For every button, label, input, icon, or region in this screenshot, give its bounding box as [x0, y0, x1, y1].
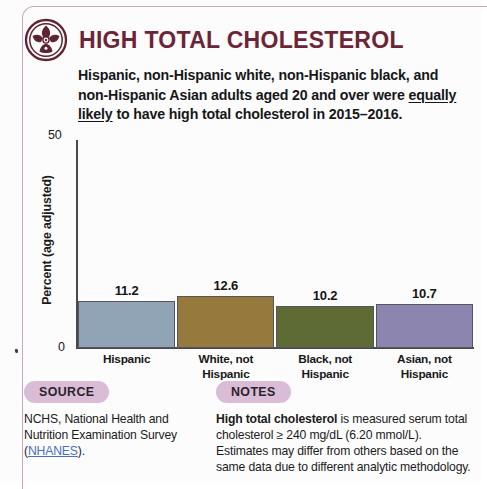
notes-text: High total cholesterol is measured serum… [216, 411, 476, 476]
plot-area: 11.212.610.210.7 [77, 140, 474, 348]
notes-bold-lead: High total cholesterol [216, 412, 337, 426]
bar-group: 12.6 [177, 278, 274, 348]
subtitle: Hispanic, non-Hispanic white, non-Hispan… [78, 66, 470, 125]
source-text-after: ). [78, 444, 85, 458]
notes-section: NOTES High total cholesterol is measured… [216, 381, 476, 475]
notes-label: NOTES [216, 381, 291, 403]
cholesterol-artery-icon [24, 18, 68, 62]
x-axis-label: Black, notHispanic [276, 352, 375, 381]
subtitle-part1: Hispanic, non-Hispanic white, non-Hispan… [78, 67, 438, 103]
bar-hispanic [78, 301, 175, 348]
subtitle-part2: to have high total cholesterol in 2015–2… [113, 106, 403, 122]
source-label: SOURCE [24, 381, 109, 403]
x-axis-label: Hispanic [77, 352, 176, 367]
nhanes-link[interactable]: NHANES [28, 444, 78, 458]
bar-group: 10.2 [276, 288, 373, 348]
bar-black-not-hispanic [276, 306, 373, 348]
bar-group: 11.2 [78, 283, 175, 348]
scan-artifact [15, 349, 18, 353]
bar-white-not-hispanic [177, 296, 274, 348]
header: HIGH TOTAL CHOLESTEROL [24, 18, 425, 62]
source-text: NCHS, National Health and Nutrition Exam… [24, 411, 202, 460]
x-axis-label: Asian, notHispanic [375, 352, 474, 381]
bar-value-label: 10.2 [313, 288, 338, 303]
bar-value-label: 11.2 [115, 283, 139, 298]
y-axis-title: Percent (age adjusted) [40, 150, 54, 330]
footer: SOURCE NCHS, National Health and Nutriti… [24, 381, 479, 475]
bar-value-label: 10.7 [412, 286, 437, 301]
bar-chart: 50 0 Percent (age adjusted) 11.212.610.2… [24, 128, 474, 358]
x-axis-label: White, notHispanic [176, 352, 275, 381]
y-axis-tick-min: 0 [58, 340, 65, 354]
bar-value-label: 12.6 [214, 278, 239, 293]
bar-group: 10.7 [376, 286, 473, 349]
source-section: SOURCE NCHS, National Health and Nutriti… [24, 381, 202, 475]
bar-asian-not-hispanic [376, 304, 473, 349]
page-title: HIGH TOTAL CHOLESTEROL [79, 26, 404, 54]
y-axis-tick-max: 50 [48, 128, 62, 142]
